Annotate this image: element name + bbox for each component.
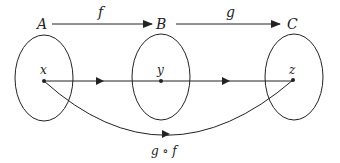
set-label-b: B xyxy=(155,16,166,32)
element-x-label: x xyxy=(40,63,47,77)
arrowhead-g-mapping-icon xyxy=(222,77,230,85)
set-b-ellipse xyxy=(132,34,190,120)
set-c-ellipse xyxy=(265,34,323,120)
composition-label: g ∘ f xyxy=(151,144,179,158)
function-label-f: f xyxy=(97,4,106,20)
composition-diagram: A f B g C x y z g ∘ f xyxy=(0,0,340,163)
set-label-c: C xyxy=(287,16,298,32)
element-z-label: z xyxy=(288,63,296,77)
arrowhead-composition-icon xyxy=(162,130,170,138)
function-label-g: g xyxy=(226,4,235,20)
element-y-label: y xyxy=(156,63,164,77)
set-a-ellipse xyxy=(15,35,73,121)
set-label-a: A xyxy=(35,16,47,32)
arrowhead-f-mapping-icon xyxy=(96,77,104,85)
composition-curve xyxy=(44,80,293,135)
